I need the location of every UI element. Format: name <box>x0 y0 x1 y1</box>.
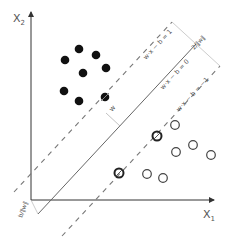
margin-width-label: 2/‖w‖ <box>190 34 207 52</box>
svm-diagram: X2 X1 w·x − b = 1 w·x − b = 0 w·x − b = … <box>0 0 228 245</box>
x-axis-label: X1 <box>203 208 215 223</box>
hyperplane-label: w·x − b = 0 <box>159 58 191 92</box>
offset-label: b/‖w‖ <box>16 200 29 218</box>
negative-class-points <box>143 121 216 183</box>
upper-margin-label: w·x − b = 1 <box>142 28 174 62</box>
normal-vector <box>106 113 120 126</box>
y-axis-label: X2 <box>13 12 25 27</box>
normal-vector-label: w <box>108 104 118 114</box>
positive-support-vector <box>101 93 110 102</box>
lower-margin-label: w·x − b = −1 <box>175 76 211 114</box>
offset-bracket <box>31 200 38 214</box>
